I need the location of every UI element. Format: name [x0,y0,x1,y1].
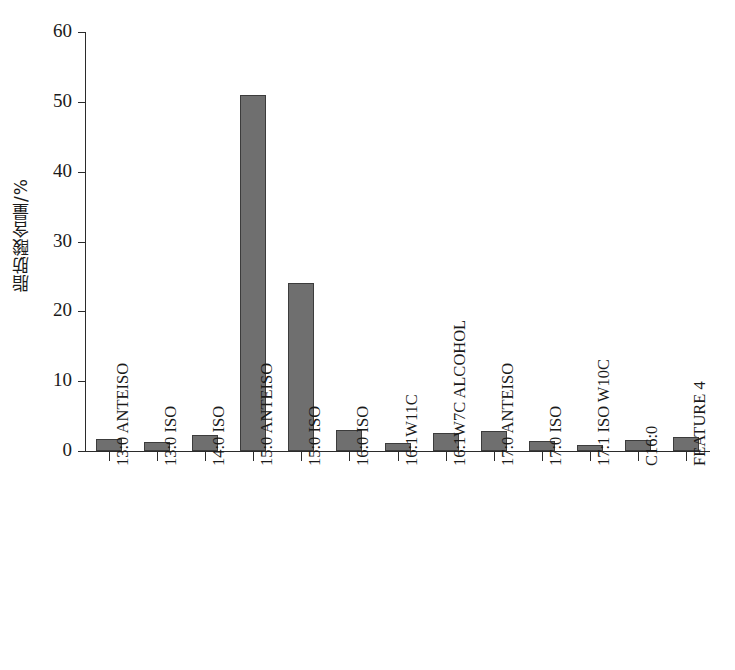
x-axis-label: 17:0 ANTEISO [500,363,516,466]
x-tick-0 [109,451,110,461]
x-axis-labels: 13:0 ANTEISO13:0 ISO14:0 ISO15:0 ANTEISO… [85,466,710,666]
x-axis-label: 13:0 ISO [163,406,179,466]
x-axis-label: 13:0 ANTEISO [115,363,131,466]
x-tick-7 [446,451,447,461]
y-tick-50: 50 [78,102,85,103]
y-tick-20: 20 [78,311,85,312]
y-tick-label-20: 20 [53,300,72,320]
y-tick-40: 40 [78,172,85,173]
y-axis-title-text: 脂肪酸含量/% [8,178,33,292]
y-tick-label-0: 0 [63,440,73,460]
x-tick-1 [157,451,158,461]
x-tick-9 [542,451,543,461]
x-tick-3 [253,451,254,461]
x-tick-8 [494,451,495,461]
y-tick-label-40: 40 [53,161,72,181]
x-tick-10 [590,451,591,461]
x-axis-label: 15:0 ANTEISO [259,363,275,466]
x-axis-label: C16:0 [644,426,660,466]
x-axis-label: 17:1 ISO W10C [596,359,612,466]
y-axis-title: 脂肪酸含量/% [0,0,40,470]
x-tick-4 [301,451,302,461]
y-tick-label-50: 50 [53,91,72,111]
x-tick-2 [205,451,206,461]
y-tick-label-60: 60 [53,21,72,41]
y-tick-label-30: 30 [53,231,72,251]
y-tick-30: 30 [78,242,85,243]
x-axis-label: 14:0 ISO [211,406,227,466]
plot-area: 0102030405060 [85,32,710,451]
x-axis-label: FEATURE 4 [692,381,708,466]
x-tick-11 [638,451,639,461]
x-axis-label: 16:0 ISO [355,406,371,466]
y-tick-10: 10 [78,381,85,382]
fatty-acid-composition-bar-chart: 脂肪酸含量/% 0102030405060 13:0 ANTEISO13:0 I… [0,0,735,670]
x-axis-label: 16:1W7C ALCOHOL [452,320,468,466]
x-axis-label: 17:0 ISO [548,406,564,466]
y-tick-0: 0 [78,451,85,452]
x-tick-12 [686,451,687,461]
x-axis-label: 15:0 ISO [307,406,323,466]
y-tick-label-10: 10 [53,370,72,390]
x-tick-5 [349,451,350,461]
y-axis-line [85,32,86,451]
y-tick-60: 60 [78,32,85,33]
x-tick-6 [398,451,399,461]
x-axis-label: 16:1W11C [404,394,420,466]
